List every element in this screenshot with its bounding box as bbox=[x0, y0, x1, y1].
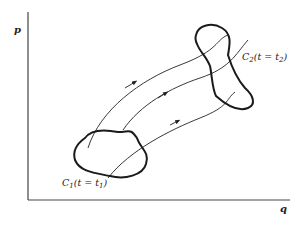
trajectories bbox=[88, 35, 248, 178]
region-c1-label: C1(t = t1) bbox=[62, 177, 108, 190]
region-c1 bbox=[74, 130, 147, 177]
region-c2-label: C2(t = t2) bbox=[242, 51, 288, 64]
q-axis-label: q bbox=[280, 203, 287, 214]
p-axis-label: p bbox=[14, 24, 21, 35]
trajectory-3 bbox=[108, 92, 235, 178]
phase-space-diagram: p q C1(t = t1) C2(t = t2) bbox=[0, 0, 303, 225]
